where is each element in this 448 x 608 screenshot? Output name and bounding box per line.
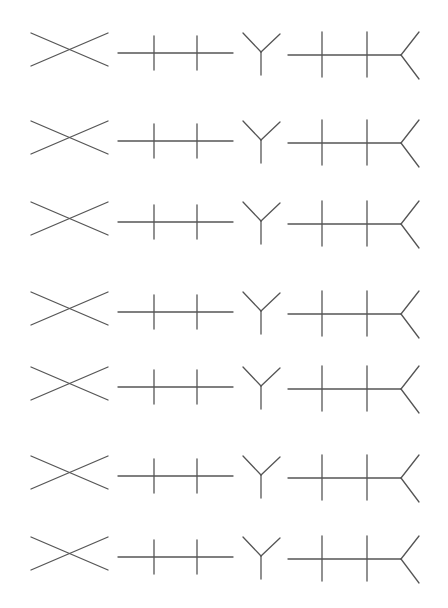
line-two-ticks-fork-shape <box>288 32 419 79</box>
y-shape <box>243 33 280 75</box>
figure-row-1 <box>31 32 419 79</box>
figure-row-2 <box>31 120 419 167</box>
figure-row-6 <box>31 455 419 502</box>
x-cross-shape <box>31 456 108 489</box>
x-cross-shape <box>31 121 108 154</box>
y-shape <box>243 202 280 244</box>
line-two-ticks-fork-shape <box>288 366 419 413</box>
line-two-ticks-fork-shape <box>288 120 419 167</box>
figure-svg <box>0 0 448 608</box>
figure-row-3 <box>31 201 419 248</box>
line-two-ticks-fork-shape <box>288 201 419 248</box>
line-two-ticks-shape <box>118 459 233 493</box>
figure-row-5 <box>31 366 419 413</box>
line-two-ticks-fork-shape <box>288 455 419 502</box>
y-shape <box>243 537 280 579</box>
x-cross-shape <box>31 367 108 400</box>
line-two-ticks-shape <box>118 540 233 574</box>
x-cross-shape <box>31 33 108 66</box>
figure-row-4 <box>31 291 419 338</box>
x-cross-shape <box>31 202 108 235</box>
line-two-ticks-shape <box>118 295 233 329</box>
y-shape <box>243 292 280 334</box>
line-two-ticks-shape <box>118 36 233 70</box>
y-shape <box>243 121 280 163</box>
line-two-ticks-shape <box>118 205 233 239</box>
y-shape <box>243 367 280 409</box>
y-shape <box>243 456 280 498</box>
line-two-ticks-shape <box>118 370 233 404</box>
line-two-ticks-fork-shape <box>288 291 419 338</box>
x-cross-shape <box>31 537 108 570</box>
line-two-ticks-fork-shape <box>288 536 419 583</box>
figure-canvas <box>0 0 448 608</box>
x-cross-shape <box>31 292 108 325</box>
line-two-ticks-shape <box>118 124 233 158</box>
figure-row-7 <box>31 536 419 583</box>
